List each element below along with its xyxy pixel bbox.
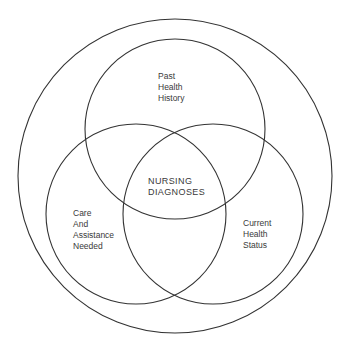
label-line: Status xyxy=(243,240,271,251)
label-line: Current xyxy=(243,218,271,229)
label-line: Care xyxy=(73,208,114,219)
label-care-and-assistance-needed: Care And Assistance Needed xyxy=(73,208,114,252)
circle-current-health-status xyxy=(123,124,303,304)
label-current-health-status: Current Health Status xyxy=(243,218,271,251)
venn-circles xyxy=(0,0,345,344)
label-line: DIAGNOSES xyxy=(148,187,205,198)
label-line: NURSING xyxy=(148,176,205,187)
label-line: Past xyxy=(158,71,184,82)
label-nursing-diagnoses: NURSING DIAGNOSES xyxy=(148,176,205,198)
venn-diagram: Past Health History NURSING DIAGNOSES Ca… xyxy=(0,0,345,344)
label-line: Health xyxy=(243,229,271,240)
label-line: Assistance xyxy=(73,230,114,241)
label-line: Needed xyxy=(73,241,114,252)
label-line: History xyxy=(158,93,184,104)
label-line: And xyxy=(73,219,114,230)
label-line: Health xyxy=(158,82,184,93)
label-past-health-history: Past Health History xyxy=(158,71,184,104)
